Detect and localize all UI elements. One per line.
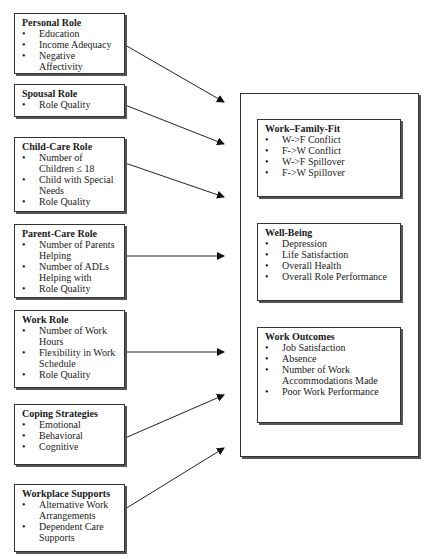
list-item: •Poor Work Performance [265, 386, 394, 397]
box-title: Workplace Supports [22, 488, 118, 499]
work-family-fit-box: Work–Family-Fit •W->F Conflict •F->W Con… [257, 119, 401, 197]
list-item: •Education [22, 28, 118, 39]
child-care-role-box: Child-Care Role •Number of Children ≤ 18… [14, 137, 125, 212]
list-item: •Income Adequacy [22, 39, 118, 50]
arrow-coping [125, 395, 224, 438]
parent-care-role-box: Parent-Care Role •Number of Parents Help… [14, 224, 125, 298]
list-item: •Role Quality [22, 283, 118, 294]
box-title: Coping Strategies [22, 408, 118, 419]
list-item: •F->W Spillover [265, 167, 394, 178]
list-item: •Child with Special Needs [22, 174, 118, 196]
list-item: •Number of Parents Helping [22, 239, 118, 261]
list-item: •Cognitive [22, 441, 118, 452]
box-title: Child-Care Role [22, 141, 118, 152]
list-item: •Absence [265, 353, 394, 364]
arrow-childcare [125, 163, 224, 197]
box-title: Work Outcomes [265, 331, 394, 342]
list-item: •Flexibility in Work Schedule [22, 347, 118, 369]
list-item: •Emotional [22, 419, 118, 430]
list-item: •W->F Spillover [265, 156, 394, 167]
personal-role-box: Personal Role •Education •Income Adequac… [14, 13, 125, 74]
box-title: Personal Role [22, 17, 118, 28]
arrow-personal [125, 45, 224, 102]
list-item: •Depression [265, 238, 394, 249]
workplace-supports-box: Workplace Supports •Alternative Work Arr… [14, 484, 125, 552]
list-item: •Negative Affectivity [22, 50, 118, 72]
box-title: Work–Family-Fit [265, 123, 394, 134]
coping-strategies-box: Coping Strategies •Emotional •Behavioral… [14, 404, 125, 465]
box-title: Parent-Care Role [22, 228, 118, 239]
list-item: •W->F Conflict [265, 134, 394, 145]
work-role-box: Work Role •Number of Work Hours •Flexibi… [14, 310, 125, 388]
arrow-spousal [125, 105, 224, 144]
box-title: Work Role [22, 314, 118, 325]
arrow-workplace [125, 448, 224, 509]
list-item: •Overall Role Performance [265, 271, 394, 282]
list-item: •Number of Work Accommodations Made [265, 364, 394, 386]
list-item: •Role Quality [22, 196, 118, 207]
list-item: •Behavioral [22, 430, 118, 441]
list-item: •Number of Children ≤ 18 [22, 152, 118, 174]
list-item: •Dependent Care Supports [22, 521, 118, 543]
work-outcomes-box: Work Outcomes •Job Satisfaction •Absence… [257, 327, 401, 423]
box-title: Well-Being [265, 227, 394, 238]
list-item: •Role Quality [22, 369, 118, 380]
well-being-box: Well-Being •Depression •Life Satisfactio… [257, 223, 401, 301]
list-item: •Alternative Work Arrangements [22, 499, 118, 521]
list-item: •Job Satisfaction [265, 342, 394, 353]
list-item: •F->W Conflict [265, 145, 394, 156]
list-item: •Overall Health [265, 260, 394, 271]
box-title: Spousal Role [22, 88, 118, 99]
list-item: •Number of Work Hours [22, 325, 118, 347]
spousal-role-box: Spousal Role •Role Quality [14, 84, 125, 117]
list-item: •Role Quality [22, 99, 118, 110]
list-item: •Number of ADLs Helping with [22, 261, 118, 283]
list-item: •Life Satisfaction [265, 249, 394, 260]
